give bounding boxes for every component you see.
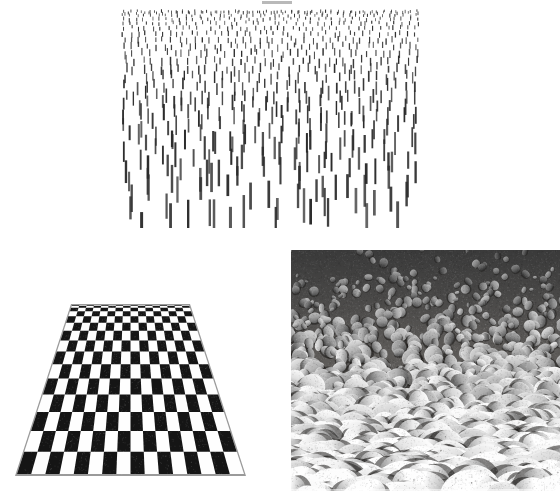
figure-title: Texture gradients as depth cues	[0, 0, 1, 1]
dash-panel-description: Field of short vertical dashes that grow…	[120, 228, 121, 229]
panel-perspective-checkerboard: Black and white checkerboard plane drawn…	[8, 296, 252, 484]
pebble-photo-canvas	[291, 250, 560, 491]
panel-pebble-photograph: Black and white photograph of a shingle …	[291, 250, 560, 491]
figure-root: Texture gradients as depth cues Field of…	[0, 0, 560, 491]
panel-dash-texture-gradient: Field of short vertical dashes that grow…	[120, 8, 420, 228]
scan-artifact-bar	[262, 1, 292, 4]
checkerboard-canvas	[8, 296, 252, 484]
dash-texture-canvas	[120, 8, 420, 228]
checkerboard-panel-description: Black and white checkerboard plane drawn…	[8, 484, 9, 485]
